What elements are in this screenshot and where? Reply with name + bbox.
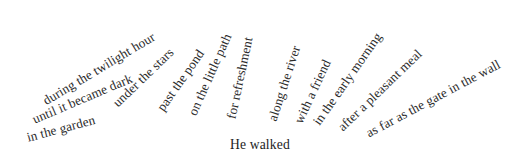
phrase-label: as far as the gate in the wall: [364, 57, 503, 139]
figure-canvas: in the gardenuntil it became darkduring …: [0, 0, 529, 160]
anchor-phrase: He walked: [230, 138, 290, 152]
